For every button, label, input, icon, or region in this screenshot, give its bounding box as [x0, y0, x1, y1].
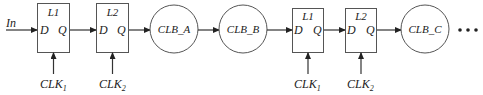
clb-a: CLB_A	[150, 5, 198, 53]
latch-q-port: Q	[58, 23, 67, 37]
clock-label: CLK2	[99, 77, 126, 93]
latch-name: L2	[354, 10, 367, 22]
latch-l1-first: L1 D Q	[38, 4, 70, 53]
latch-name: L1	[301, 10, 314, 22]
clock-label: CLK2	[347, 77, 374, 93]
clb-c: CLB_C	[401, 5, 449, 53]
input-label: In	[5, 16, 16, 30]
latch-l2-second: L2 D Q	[346, 9, 377, 53]
latch-q-port: Q	[117, 23, 126, 37]
latch-d-port: D	[39, 23, 49, 37]
latch-q-port: Q	[366, 23, 375, 37]
latch-d-port: D	[346, 23, 356, 37]
clb-label: CLB_C	[408, 23, 442, 35]
latch-name: L1	[47, 6, 60, 18]
clock-label: CLK1	[40, 77, 67, 93]
latch-q-port: Q	[313, 23, 322, 37]
clb-label: CLB_B	[227, 23, 260, 35]
clb-label: CLB_A	[158, 23, 191, 35]
clb-b: CLB_B	[219, 5, 267, 53]
latch-pipeline-diagram: In L1 D Q CLK1 L2 D Q CLK2 CLB_A CLB_B L…	[0, 0, 483, 95]
latch-name: L2	[106, 6, 119, 18]
ellipsis-icon	[458, 28, 478, 32]
latch-l1-second: L1 D Q	[293, 9, 324, 53]
clock-label: CLK1	[294, 77, 321, 93]
latch-d-port: D	[98, 23, 108, 37]
latch-l2-first: L2 D Q	[97, 4, 129, 53]
latch-d-port: D	[293, 23, 303, 37]
